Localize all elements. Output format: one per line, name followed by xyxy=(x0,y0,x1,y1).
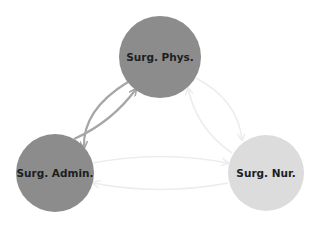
network-diagram: Surg. Phys. Surg. Admin. Surg. Nur. xyxy=(0,0,312,226)
node-surg-phys[interactable]: Surg. Phys. xyxy=(119,16,201,98)
edge-phys-to-admin xyxy=(84,82,128,148)
node-surg-admin[interactable]: Surg. Admin. xyxy=(16,134,94,212)
edge-nur-to-admin xyxy=(93,183,228,190)
nodes: Surg. Phys. Surg. Admin. Surg. Nur. xyxy=(16,16,304,212)
edge-phys-to-nur xyxy=(196,78,242,140)
node-label-phys: Surg. Phys. xyxy=(126,51,194,63)
node-label-admin: Surg. Admin. xyxy=(16,167,93,179)
edge-admin-to-phys xyxy=(74,89,136,139)
node-surg-nur[interactable]: Surg. Nur. xyxy=(228,135,304,211)
edge-nur-to-phys xyxy=(188,88,232,153)
node-label-nur: Surg. Nur. xyxy=(236,167,295,179)
edge-admin-to-nur xyxy=(93,157,228,164)
